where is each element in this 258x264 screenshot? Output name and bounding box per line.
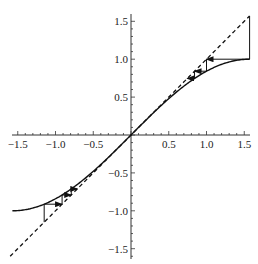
y-tick-label: 1.0 [114,53,128,65]
y-tick-label: −0.5 [108,167,128,179]
y-tick-label: 0.5 [114,91,128,103]
x-tick-label: 1.0 [200,138,214,150]
x-tick-label: −0.5 [83,138,103,150]
x-tick-label: 0.5 [162,138,176,150]
x-tick-label: 1.5 [237,138,251,150]
y-tick-label: 1.5 [114,15,128,27]
cobweb-plot: −1.5−1.0−0.50.51.01.51.51.00.5−0.5−1.0−1… [0,0,258,264]
y-tick-label: −1.0 [108,205,128,217]
x-tick-label: −1.5 [8,138,28,150]
y-tick-label: −1.5 [108,243,128,255]
curves [10,16,249,256]
x-tick-label: −1.0 [46,138,66,150]
identity-line [10,16,249,256]
